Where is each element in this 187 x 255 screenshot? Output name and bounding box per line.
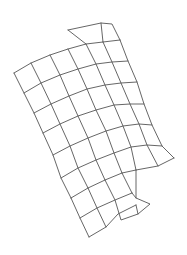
mesh-edge-line (88, 188, 106, 227)
mesh-edge-line (68, 23, 120, 40)
mesh-edge-line (68, 30, 86, 44)
mesh-row-line (61, 145, 162, 178)
mesh-column-line (14, 73, 71, 198)
mesh-column-lines (14, 40, 174, 198)
deformed-mesh-diagram (0, 0, 187, 255)
mesh-row-line (43, 104, 144, 133)
mesh-edge-line (101, 23, 103, 42)
mesh-column-line (50, 55, 105, 180)
mesh-edge-line (80, 193, 132, 218)
mesh-row-line (53, 124, 152, 155)
mesh-edge-line (89, 205, 136, 237)
mesh-figure (0, 0, 187, 255)
mesh-edge-line (122, 173, 132, 193)
mesh-edge-line (136, 205, 138, 214)
mesh-edge-line (105, 180, 150, 220)
